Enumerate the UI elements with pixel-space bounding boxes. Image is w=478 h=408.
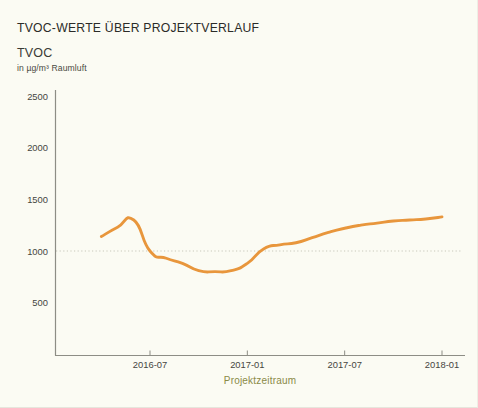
line-chart-plot: 5001000150020002500 2016-072017-012017-0… [0,0,478,408]
x-tick-labels: 2016-072017-012017-072018-01 [133,359,459,370]
x-tick-label: 2018-01 [425,359,459,370]
tvoc-series-line [101,217,442,272]
y-tick-labels: 5001000150020002500 [27,91,48,309]
chart-card: TVOC-WERTE ÜBER PROJEKTVERLAUF TVOC in µ… [0,0,478,408]
x-tick-label: 2016-07 [133,359,167,370]
x-tick-label: 2017-01 [230,359,264,370]
x-tick-label: 2017-07 [327,359,361,370]
y-tick-label: 1500 [27,194,48,205]
y-tick-label: 1000 [27,246,48,257]
y-tick-label: 500 [32,297,48,308]
x-tick-marks [150,351,442,356]
x-axis-title: Projektzeitraum [224,375,296,386]
y-tick-label: 2500 [27,91,48,102]
y-tick-label: 2000 [27,142,48,153]
